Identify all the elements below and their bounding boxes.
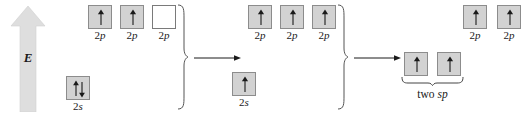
orbital-box-sp-1 [404, 52, 428, 76]
electron-arrow-pair-up-down [67, 77, 89, 99]
electron-arrow-up [313, 6, 335, 28]
orbital-label-2p-2: 2p [115, 29, 149, 41]
transition-arrow-2 [354, 52, 402, 64]
transition-arrow-1 [194, 52, 242, 64]
orbital-box-2p-3-empty [152, 5, 176, 29]
orbital-box-2p-7 [463, 5, 487, 29]
electron-arrow-up [438, 53, 460, 75]
electron-arrow-up [89, 6, 111, 28]
electron-arrow-up [121, 6, 143, 28]
orbital-box-2p-8 [497, 5, 521, 29]
stage-1-brace [176, 4, 190, 110]
electron-arrow-up [249, 6, 271, 28]
electron-arrow-up [498, 6, 520, 28]
orbital-label-2p-1: 2p [83, 29, 117, 41]
electron-arrow-up [281, 6, 303, 28]
orbital-label-2s-promoted: 2s [227, 96, 261, 108]
orbital-label-2p-8: 2p [492, 29, 526, 41]
electron-arrow-up [233, 73, 255, 95]
orbital-box-sp-2 [437, 52, 461, 76]
orbital-label-2p-7: 2p [458, 29, 492, 41]
electron-arrow-up [464, 6, 486, 28]
orbital-box-2p-5 [280, 5, 304, 29]
electron-arrow-up [405, 53, 427, 75]
sp-underbrace [401, 77, 464, 86]
orbital-label-2p-5: 2p [275, 29, 309, 41]
sp-hybrid-group-label: two sp [401, 88, 464, 100]
energy-axis-label: E [10, 50, 46, 66]
orbital-hybridization-diagram: E 2p 2p 2p [0, 0, 530, 115]
stage-2-brace [336, 4, 350, 110]
orbital-label-2s-ground: 2s [61, 100, 95, 112]
orbital-box-2p-2 [120, 5, 144, 29]
orbital-box-2p-1 [88, 5, 112, 29]
orbital-box-2s-ground [66, 76, 90, 100]
orbital-label-2p-4: 2p [243, 29, 277, 41]
orbital-box-2p-6 [312, 5, 336, 29]
orbital-box-2s-promoted [232, 72, 256, 96]
orbital-box-2p-4 [248, 5, 272, 29]
